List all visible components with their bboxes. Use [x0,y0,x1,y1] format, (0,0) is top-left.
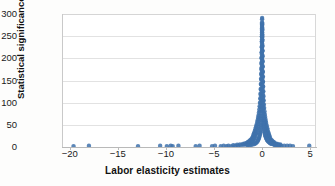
x-tick-mark--5 [214,147,215,150]
y-tick-label-200: 200 [0,53,17,63]
y-tick-label-300: 300 [0,9,17,19]
y-tick-label-250: 250 [0,31,17,41]
y-tick-label-100: 100 [0,98,17,108]
y-tick-label-0: 0 [0,142,17,152]
x-tick-label--10: −10 [149,149,183,159]
x-tick-label--20: −20 [53,149,87,159]
x-tick-label--15: −15 [101,149,135,159]
x-tick-mark--20 [70,147,71,150]
y-tick-label-50: 50 [0,120,17,130]
y-tick-label-150: 150 [0,76,17,86]
x-tick-label-5: 5 [293,149,327,159]
scatter-points-layer [62,14,316,147]
x-tick-mark--15 [118,147,119,150]
x-tick-mark-5 [310,147,311,150]
x-tick-mark--10 [166,147,167,150]
x-tick-label--5: −5 [197,149,231,159]
figure-canvas: Statistical significance (1/Se) Labor el… [0,0,335,186]
x-axis-title: Labor elasticity estimates [0,165,335,176]
x-axis-line [62,147,317,148]
x-tick-mark-0 [262,147,263,150]
x-tick-label-0: 0 [245,149,279,159]
